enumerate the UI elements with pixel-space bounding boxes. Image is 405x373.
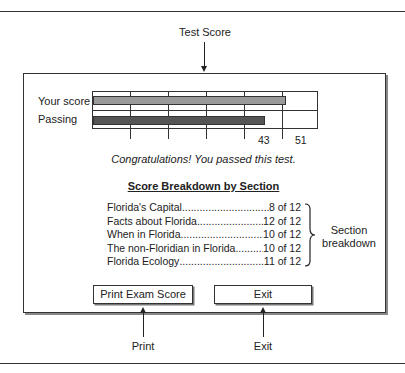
exit-button[interactable]: Exit <box>214 285 312 304</box>
section-breakdown-callout: Section breakdown <box>320 224 378 250</box>
chart-row-separator <box>92 110 318 111</box>
top-rule <box>0 11 405 12</box>
pass-message: Congratulations! You passed this test. <box>23 153 384 165</box>
print-exam-score-button[interactable]: Print Exam Score <box>93 285 193 304</box>
callout-line-exit <box>263 312 264 337</box>
section-name: The non-Floridian in Florida <box>107 242 235 256</box>
section-name: Florida Ecology <box>107 255 179 269</box>
list-item: The non-Floridian in Florida 10 of 12 <box>107 242 301 256</box>
tick-label-passing: 43 <box>258 134 270 146</box>
section-name: Facts about Florida <box>107 215 197 229</box>
section-name: Florida's Capital <box>107 201 182 215</box>
callout-exit: Exit <box>243 340 283 352</box>
section-score: 11 of 12 <box>264 255 301 269</box>
bar-your-score <box>93 96 286 105</box>
callout-test-score: Test Score <box>170 26 240 38</box>
leader-dots <box>235 242 263 256</box>
row-label-your-score: Your score <box>38 95 90 107</box>
section-name: When in Florida <box>107 228 181 242</box>
leader-dots <box>181 228 264 242</box>
section-score: 10 of 12 <box>263 242 301 256</box>
arrow-down-icon <box>201 66 207 72</box>
leader-dots <box>197 215 263 229</box>
leader-dots <box>182 201 269 215</box>
list-item: Florida Ecology 11 of 12 <box>107 255 301 269</box>
bottom-rule <box>0 363 405 364</box>
list-item: Florida's Capital 8 of 12 <box>107 201 301 215</box>
section-score: 8 of 12 <box>269 201 301 215</box>
callout-line-1: Section <box>320 224 378 237</box>
tick-label-your-score: 51 <box>295 134 307 146</box>
row-label-passing: Passing <box>38 113 77 125</box>
section-score: 10 of 12 <box>263 228 301 242</box>
list-item: Facts about Florida 12 of 12 <box>107 215 301 229</box>
callout-line-test-score <box>204 42 205 66</box>
breakdown-list: Florida's Capital 8 of 12 Facts about Fl… <box>107 201 301 269</box>
leader-dots <box>179 255 263 269</box>
breakdown-title: Score Breakdown by Section <box>23 180 384 192</box>
list-item: When in Florida 10 of 12 <box>107 228 301 242</box>
callout-line-2: breakdown <box>320 237 378 250</box>
section-score: 12 of 12 <box>263 215 301 229</box>
bar-passing <box>93 116 265 125</box>
callout-line-print <box>143 312 144 337</box>
callout-print: Print <box>123 340 163 352</box>
curly-brace-icon <box>303 203 317 267</box>
